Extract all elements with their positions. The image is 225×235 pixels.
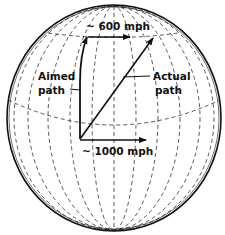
actual-label-line2: path [155, 84, 182, 96]
globe-drawing [0, 0, 225, 235]
meridians [14, 6, 214, 230]
globe-diagram: ~ 600 mph Aimed path Actual path ~ 1000 … [0, 0, 225, 235]
actual-label-line1: Actual [153, 70, 191, 82]
aimed-label-line2: path [38, 84, 65, 96]
aimed-label-line1: Aimed [38, 70, 75, 82]
actual-path-arrow [80, 38, 153, 139]
top-speed-label: ~ 600 mph [86, 20, 150, 32]
bottom-speed-label: ~ 1000 mph [82, 145, 153, 157]
aimed-path-arrow [80, 37, 87, 139]
